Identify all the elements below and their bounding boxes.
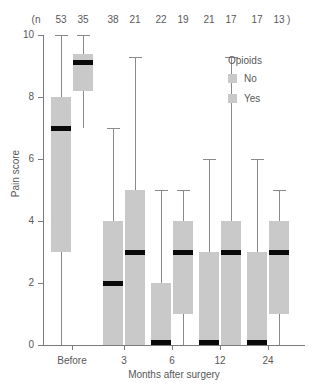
median-yes-6: [173, 250, 193, 255]
x-tick-mark: [124, 345, 125, 350]
x-tick-mark: [72, 345, 73, 350]
x-axis-line: [43, 345, 305, 346]
y-tick-label: 10: [4, 30, 34, 40]
x-tick-mark: [220, 345, 221, 350]
box-no-12: [199, 252, 219, 345]
legend-swatch-icon: [228, 74, 237, 83]
box-yes-6: [173, 221, 193, 314]
y-tick-label: 2: [4, 278, 34, 288]
box-no-6: [151, 283, 171, 345]
legend-item-no[interactable]: No: [228, 73, 314, 84]
median-yes-24: [269, 250, 289, 255]
y-tick-label: 8: [4, 92, 34, 102]
x-axis-label: Months after surgery: [43, 369, 305, 380]
y-tick-mark: [38, 35, 43, 36]
whisker-cap-upper: [273, 190, 286, 191]
x-tick-label: 24: [228, 355, 308, 367]
whisker-cap-upper: [77, 35, 90, 36]
whisker-cap-upper: [55, 35, 68, 36]
whisker-cap-upper: [129, 57, 142, 58]
y-tick-mark: [38, 221, 43, 222]
y-tick-mark: [38, 97, 43, 98]
legend-title: Opioids: [228, 55, 314, 66]
y-tick-label: 0: [4, 340, 34, 350]
legend-label: Yes: [244, 93, 260, 104]
box-yes-12: [221, 221, 241, 345]
median-yes-3: [125, 250, 145, 255]
x-tick-mark: [268, 345, 269, 350]
median-yes-12: [221, 250, 241, 255]
box-yes-24: [269, 221, 289, 314]
median-yes-Before: [73, 60, 93, 65]
legend-label: No: [244, 73, 257, 84]
legend: Opioids NoYes: [228, 55, 314, 113]
whisker-cap-upper: [155, 190, 168, 191]
y-tick-label: 4: [4, 216, 34, 226]
y-axis-label: Pain score: [10, 134, 21, 214]
legend-item-yes[interactable]: Yes: [228, 93, 314, 104]
whisker-cap-upper: [177, 190, 190, 191]
y-tick-mark: [38, 345, 43, 346]
whisker-cap-upper: [203, 159, 216, 160]
pain-score-boxplot-figure: (n53353821221921171713) 0246810 Before36…: [0, 0, 317, 388]
legend-entries: NoYes: [228, 73, 314, 104]
median-no-3: [103, 281, 123, 286]
median-no-Before: [51, 126, 71, 131]
y-axis-line: [43, 35, 44, 346]
box-yes-Before: [73, 54, 93, 91]
box-yes-3: [125, 190, 145, 345]
x-tick-mark: [172, 345, 173, 350]
legend-swatch-icon: [228, 94, 237, 103]
box-no-Before: [51, 97, 71, 252]
y-tick-mark: [38, 283, 43, 284]
box-no-24: [247, 252, 267, 345]
whisker-cap-upper: [251, 159, 264, 160]
y-tick-mark: [38, 159, 43, 160]
whisker-cap-upper: [107, 128, 120, 129]
